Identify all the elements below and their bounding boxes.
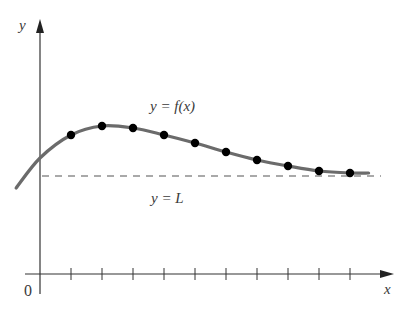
x-axis-label: x xyxy=(383,281,391,297)
data-point xyxy=(129,124,137,132)
axes xyxy=(25,19,394,294)
curve-label: y = f(x) xyxy=(148,98,195,115)
y-axis-label: y xyxy=(17,17,26,33)
asymptote-label: y = L xyxy=(149,190,184,206)
x-axis-arrow-icon xyxy=(380,270,394,278)
data-point xyxy=(222,148,230,156)
data-point xyxy=(67,131,75,139)
limit-at-infinity-graph: y x 0 y = f(x) y = L xyxy=(0,0,401,321)
data-point xyxy=(98,122,106,130)
data-point xyxy=(253,156,261,164)
origin-label: 0 xyxy=(24,282,32,299)
y-axis-arrow-icon xyxy=(36,19,44,33)
data-point xyxy=(160,131,168,139)
data-point xyxy=(346,169,354,177)
data-point xyxy=(284,162,292,170)
data-point xyxy=(191,139,199,147)
data-point xyxy=(315,167,323,175)
